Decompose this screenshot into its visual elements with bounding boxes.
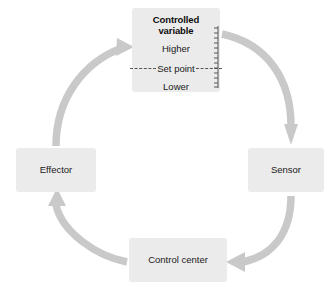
node-controlled-variable: Controlled variable Higher Set point Low…	[132, 8, 220, 92]
effector-label: Effector	[40, 165, 73, 175]
controlled-variable-higher: Higher	[138, 40, 214, 58]
controlled-variable-lower: Lower	[138, 78, 214, 96]
controlled-variable-scale-icon	[212, 26, 219, 88]
controlled-variable-title: Controlled variable	[138, 14, 214, 36]
controlled-variable-setpoint-row: Set point	[138, 59, 214, 77]
arrow-controlled-variable-to-sensor	[222, 34, 298, 145]
arrow-control-center-to-effector	[48, 188, 127, 262]
node-effector: Effector	[16, 148, 96, 192]
figure-canvas: Controlled variable Higher Set point Low…	[0, 0, 331, 287]
node-control-center: Control center	[129, 238, 227, 282]
controlled-variable-setpoint-label: Set point	[156, 63, 196, 74]
control-center-label: Control center	[148, 255, 208, 265]
node-sensor: Sensor	[248, 148, 324, 192]
arrow-sensor-to-control-center	[226, 196, 291, 272]
arrow-effector-to-controlled-variable	[56, 38, 134, 146]
sensor-label: Sensor	[271, 165, 301, 175]
setpoint-dash-left	[130, 68, 156, 69]
